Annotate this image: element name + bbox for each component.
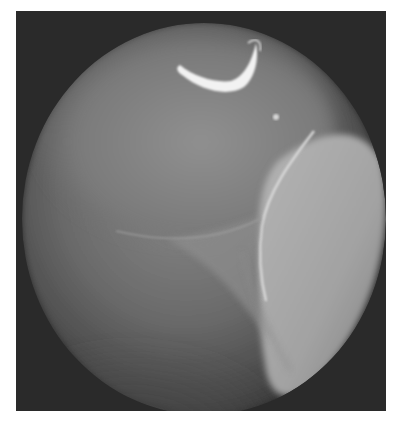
endoscopic-image-frame [16,11,386,411]
endoscopic-image [16,11,386,411]
small-bright-spot [273,114,279,120]
